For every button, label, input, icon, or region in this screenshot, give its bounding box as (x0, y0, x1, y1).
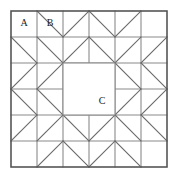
label-b: B (47, 17, 54, 28)
center-square-c (63, 63, 115, 115)
label-c: C (99, 95, 106, 106)
quilt-block-svg: ABC (0, 0, 180, 169)
quilt-block-figure: ABC (0, 0, 180, 169)
label-a: A (20, 17, 28, 28)
